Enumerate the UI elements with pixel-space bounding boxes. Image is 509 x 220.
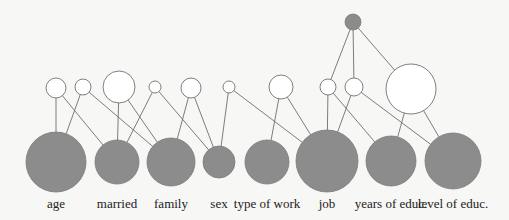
hidden-node-h9: [345, 78, 363, 96]
hidden-node-h1: [46, 78, 66, 98]
nodes-layer: [26, 14, 481, 192]
edge-h3-family: [128, 100, 157, 142]
node-label-years_of_educ: years of educ.: [355, 196, 428, 211]
hidden-node-h3: [103, 71, 135, 103]
node-label-married: married: [97, 196, 138, 211]
hidden-node-h4: [149, 81, 161, 93]
observed-node-sex: [203, 146, 235, 178]
hidden-node-h8: [320, 79, 336, 95]
observed-node-type_of_work: [245, 140, 289, 184]
observed-node-job: [296, 130, 358, 192]
edge-root-h10: [358, 28, 394, 70]
edge-h6-job: [234, 91, 302, 143]
observed-node-level_of_educ: [425, 133, 481, 189]
edge-h10-years_of_educ: [398, 113, 405, 137]
edge-h6-sex: [221, 93, 228, 146]
node-label-age: age: [47, 196, 65, 211]
hidden-node-h6: [223, 81, 235, 93]
observed-node-married: [95, 140, 139, 184]
root-node: [345, 14, 361, 30]
edge-h10-level_of_educ: [424, 111, 439, 137]
edge-h3-married: [118, 103, 119, 140]
labels-layer: agemarriedfamilysextype of workjobyears …: [47, 196, 488, 211]
observed-node-family: [147, 138, 195, 186]
node-label-job: job: [318, 196, 336, 211]
hidden-node-h2: [75, 79, 91, 95]
edge-h5-family: [177, 98, 188, 139]
edge-root-h8: [331, 29, 350, 79]
edge-root-h9: [353, 30, 354, 78]
edge-h2-age: [66, 95, 80, 134]
edge-h7-job: [287, 97, 310, 134]
hidden-node-h5: [181, 78, 201, 98]
edge-h5-sex: [195, 97, 214, 147]
observed-node-age: [26, 132, 86, 192]
node-label-family: family: [154, 196, 188, 211]
bayesian-network-diagram: agemarriedfamilysextype of workjobyears …: [0, 0, 509, 220]
node-label-level_of_educ: level of educ.: [418, 196, 488, 211]
node-label-type_of_work: type of work: [234, 196, 301, 211]
hidden-node-h10: [386, 64, 436, 114]
hidden-node-h7: [269, 75, 293, 99]
node-label-sex: sex: [210, 196, 228, 211]
observed-node-years_of_educ: [366, 136, 416, 186]
